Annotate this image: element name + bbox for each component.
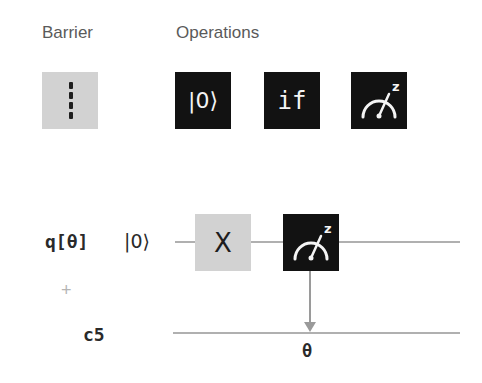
barrier-icon (42, 72, 98, 129)
barrier-tile[interactable] (42, 72, 98, 129)
if-tile[interactable]: if (264, 72, 320, 129)
if-icon: if (278, 87, 307, 115)
qubit-init-state[interactable]: |0⟩ (124, 230, 150, 252)
classical-register-label[interactable]: c5 (83, 324, 105, 345)
measure-gate[interactable]: z (283, 214, 339, 271)
qubit-name-label[interactable]: q[θ] (45, 231, 88, 252)
x-gate-label: X (214, 228, 232, 258)
measure-z-icon: z (351, 72, 407, 129)
reset-icon: |0⟩ (188, 88, 218, 113)
barrier-section-title: Barrier (42, 23, 93, 43)
add-register-button[interactable]: + (61, 280, 72, 301)
reset-tile[interactable]: |0⟩ (175, 72, 231, 129)
classical-bit-index: θ (302, 341, 312, 361)
operations-section-title: Operations (176, 23, 259, 43)
measure-tile[interactable]: z (351, 72, 407, 129)
x-gate[interactable]: X (195, 214, 251, 271)
measure-z-icon: z (283, 214, 339, 271)
arrow-down-icon (303, 322, 317, 333)
svg-text:z: z (392, 79, 400, 94)
svg-text:z: z (324, 221, 332, 236)
measure-connector (309, 271, 311, 325)
